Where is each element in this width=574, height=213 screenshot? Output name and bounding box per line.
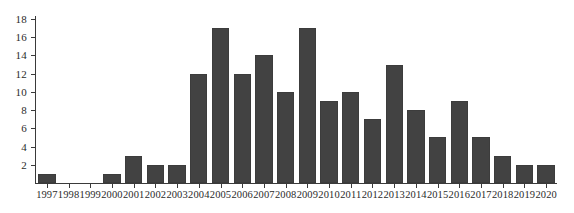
bar[interactable]	[168, 165, 185, 183]
x-axis-tick	[329, 184, 330, 188]
x-axis-tick-label: 2011	[340, 190, 361, 201]
x-axis-tick-label: 2014	[405, 190, 426, 201]
bar[interactable]	[38, 174, 55, 183]
bar[interactable]	[255, 55, 272, 183]
x-axis-tick-label: 2002	[145, 190, 166, 201]
x-axis-tick	[199, 184, 200, 188]
x-axis-line	[36, 183, 557, 184]
y-axis-tick-label: 2	[0, 159, 27, 170]
x-axis-tick-label: 2016	[449, 190, 470, 201]
x-axis-tick	[351, 184, 352, 188]
x-axis-tick-label: 2007	[253, 190, 274, 201]
x-axis-tick-label: 2000	[101, 190, 122, 201]
x-axis-tick-label: 2018	[492, 190, 513, 201]
x-axis-tick	[503, 184, 504, 188]
x-axis-tick	[372, 184, 373, 188]
x-axis-tick-label: 2017	[470, 190, 491, 201]
bar[interactable]	[277, 92, 294, 183]
y-axis-tick-label: 12	[0, 68, 27, 79]
x-axis-tick	[438, 184, 439, 188]
bar[interactable]	[516, 165, 533, 183]
bar[interactable]	[234, 74, 251, 183]
bar[interactable]	[125, 156, 142, 183]
x-axis-tick	[524, 184, 525, 188]
bar[interactable]	[299, 28, 316, 183]
x-axis-tick	[546, 184, 547, 188]
x-axis-tick-label: 2008	[275, 190, 296, 201]
x-axis-tick	[69, 184, 70, 188]
bar[interactable]	[494, 156, 511, 183]
bar[interactable]	[320, 101, 337, 183]
bar[interactable]	[147, 165, 164, 183]
x-axis-tick-label: 1998	[58, 190, 79, 201]
x-axis-tick	[134, 184, 135, 188]
x-axis-tick-label: 2004	[188, 190, 209, 201]
bar[interactable]	[429, 137, 446, 183]
bars-layer	[36, 14, 557, 183]
x-axis-tick-label: 2006	[232, 190, 253, 201]
x-axis-tick-label: 2012	[362, 190, 383, 201]
y-axis-tick-label: 4	[0, 141, 27, 152]
bar[interactable]	[103, 174, 120, 183]
x-axis-tick	[394, 184, 395, 188]
x-axis-tick-label: 2009	[297, 190, 318, 201]
bar[interactable]	[190, 74, 207, 183]
x-axis-tick	[481, 184, 482, 188]
bar[interactable]	[342, 92, 359, 183]
bar[interactable]	[364, 119, 381, 183]
x-axis-tick-label: 2010	[318, 190, 339, 201]
x-axis-tick-label: 2019	[514, 190, 535, 201]
x-axis-tick	[221, 184, 222, 188]
x-axis-tick-label: 2013	[383, 190, 404, 201]
x-axis-tick	[264, 184, 265, 188]
x-axis-tick	[112, 184, 113, 188]
bar[interactable]	[212, 28, 229, 183]
x-axis-tick-label: 1999	[80, 190, 101, 201]
x-axis-tick	[286, 184, 287, 188]
x-axis-tick-label: 2020	[535, 190, 556, 201]
x-axis-tick	[459, 184, 460, 188]
bar[interactable]	[386, 65, 403, 183]
x-axis-tick	[155, 184, 156, 188]
y-axis-tick-label: 6	[0, 123, 27, 134]
x-axis-tick	[47, 184, 48, 188]
x-axis-tick	[307, 184, 308, 188]
x-axis-tick-label: 2005	[210, 190, 231, 201]
x-axis-tick-label: 2003	[166, 190, 187, 201]
y-axis-tick-label: 18	[0, 14, 27, 25]
y-axis-tick-label: 8	[0, 105, 27, 116]
bar[interactable]	[472, 137, 489, 183]
x-axis-tick-label: 2015	[427, 190, 448, 201]
x-axis-tick	[242, 184, 243, 188]
y-axis-tick-label: 10	[0, 86, 27, 97]
bar[interactable]	[407, 110, 424, 183]
bar-chart: 24681012141618 1997199819992000200120022…	[0, 0, 574, 213]
x-axis-tick	[177, 184, 178, 188]
x-axis-tick-label: 1997	[36, 190, 57, 201]
x-axis-tick-label: 2001	[123, 190, 144, 201]
x-axis-tick	[416, 184, 417, 188]
bar[interactable]	[537, 165, 554, 183]
x-axis-tick	[90, 184, 91, 188]
bar[interactable]	[451, 101, 468, 183]
y-axis-tick-label: 14	[0, 50, 27, 61]
y-axis-tick-label: 16	[0, 32, 27, 43]
